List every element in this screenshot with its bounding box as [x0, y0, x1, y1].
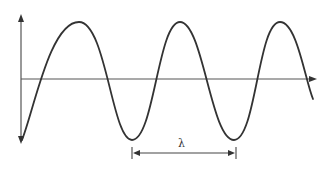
- arrow-right-icon: [309, 76, 317, 82]
- horizontal-axis: [21, 76, 317, 82]
- wavelength-label: λ: [178, 137, 185, 150]
- arrow-right-icon: [228, 150, 235, 156]
- arrow-up-icon: [18, 14, 24, 22]
- arrow-left-icon: [133, 150, 140, 156]
- wave-curve: [22, 22, 313, 140]
- wave-diagram: [0, 0, 330, 172]
